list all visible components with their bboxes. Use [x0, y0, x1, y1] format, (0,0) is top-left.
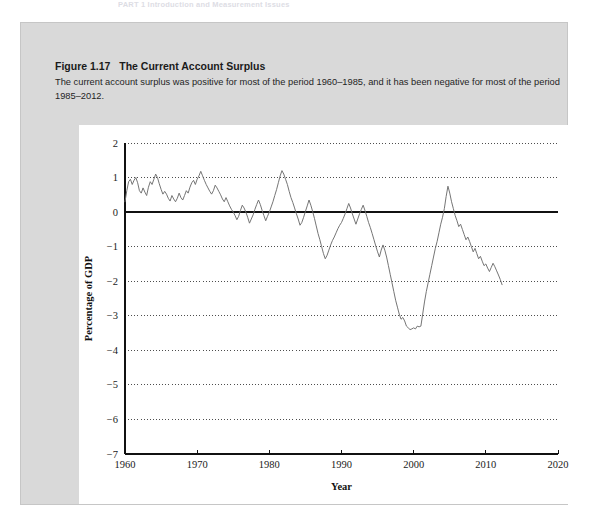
- y-tick-label: −3: [107, 310, 118, 321]
- x-axis-title: Year: [331, 481, 352, 492]
- figure-description: The current account surplus was positive…: [55, 76, 571, 103]
- y-tick-label: −4: [107, 345, 119, 356]
- x-tick-label: 1990: [331, 459, 352, 470]
- x-tick-label: 2020: [548, 459, 569, 470]
- y-tick-label: −6: [107, 414, 118, 425]
- chart-plot-area: 210−1−2−3−4−5−6−7 1960197019801990200020…: [79, 125, 570, 504]
- grid-lines: [125, 143, 558, 454]
- y-tick-label: 2: [113, 138, 118, 149]
- x-tick-label: 1970: [187, 459, 208, 470]
- line-chart: 210−1−2−3−4−5−6−7 1960197019801990200020…: [79, 125, 570, 504]
- y-tick-label: −5: [107, 379, 118, 390]
- y-tick-label: −1: [107, 241, 118, 252]
- axis-labels: Percentage of GDPYear: [83, 255, 352, 492]
- data-series: [125, 171, 502, 330]
- figure-panel: Figure 1.17 The Current Account Surplus …: [20, 22, 568, 505]
- y-tick-label: −7: [107, 449, 118, 460]
- figure-number: Figure 1.17: [55, 60, 110, 72]
- x-tick-label: 1960: [115, 459, 136, 470]
- axis-lines: [125, 143, 558, 454]
- y-tick-label: 0: [113, 207, 118, 218]
- y-tick-label: −2: [107, 276, 118, 287]
- running-header: PART 1 Introduction and Measurement Issu…: [118, 0, 458, 11]
- x-tick-label: 2000: [403, 459, 424, 470]
- y-axis-title: Percentage of GDP: [83, 255, 94, 341]
- x-tick-label: 1980: [259, 459, 280, 470]
- y-axis-ticks: 210−1−2−3−4−5−6−7: [107, 138, 119, 460]
- figure-title-text: The Current Account Surplus: [119, 60, 265, 72]
- x-tick-label: 2010: [475, 459, 496, 470]
- page-root: PART 1 Introduction and Measurement Issu…: [0, 0, 589, 528]
- chart-card: 210−1−2−3−4−5−6−7 1960197019801990200020…: [79, 125, 570, 504]
- series-line: [125, 171, 502, 330]
- figure-caption-block: Figure 1.17 The Current Account Surplus …: [55, 59, 575, 103]
- figure-title: Figure 1.17 The Current Account Surplus: [55, 59, 575, 73]
- x-axis-ticks: 1960197019801990200020102020: [115, 450, 569, 471]
- y-tick-label: 1: [113, 172, 118, 183]
